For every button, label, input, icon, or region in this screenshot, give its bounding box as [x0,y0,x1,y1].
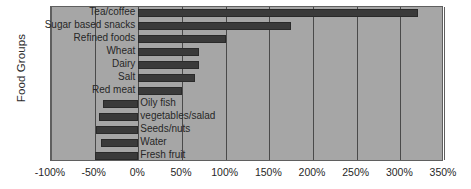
x-tick-label: 150% [255,166,282,178]
x-tick-label: -50% [81,166,106,178]
bars-layer [51,7,442,160]
x-axis-tick-labels: -100%-50%0%50%100%150%200%250%300%350% [0,166,471,186]
bar-chart: Food Groups Tea/coffeeSugar based snacks… [0,0,471,189]
x-tick-label: 100% [211,166,238,178]
bar [138,74,195,82]
bar [138,9,417,17]
x-tick-label: 300% [386,166,413,178]
bar [103,100,138,108]
bar [138,35,225,43]
y-axis-title: Food Groups [15,20,27,116]
bar [138,48,199,56]
bar [138,87,182,95]
bar [138,22,291,30]
x-tick-label: 50% [170,166,191,178]
bar [138,61,199,69]
x-tick-label: 350% [430,166,457,178]
bar [96,126,138,134]
plot-area [50,6,443,161]
bar [99,113,138,121]
x-tick-label: -100% [35,166,65,178]
bar [101,139,139,147]
gridline [444,7,445,160]
x-tick-label: 0% [130,166,145,178]
bar [95,152,139,160]
x-tick-label: 250% [342,166,369,178]
x-tick-label: 200% [299,166,326,178]
